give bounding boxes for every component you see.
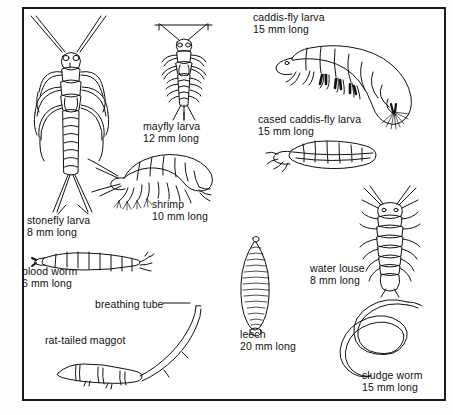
- label-rat-tailed-maggot: rat-tailed maggot: [45, 334, 126, 346]
- organism-name-stonefly: stonefly larva: [27, 214, 90, 226]
- label-caddis-fly-larva: caddis-fly larva 15 mm long: [253, 11, 325, 35]
- organism-size-waterlouse: 8 mm long: [310, 274, 365, 286]
- organism-name-sludge: sludge worm: [362, 369, 423, 381]
- organism-size-shrimp: 10 mm long: [152, 210, 208, 222]
- label-sludge-worm: sludge worm 15 mm long: [362, 369, 423, 393]
- organism-size-bloodworm: 6 mm long: [22, 277, 77, 289]
- label-stonefly-larva: stonefly larva 8 mm long: [27, 214, 90, 238]
- label-shrimp: shrimp 10 mm long: [152, 198, 208, 222]
- label-breathing-tube: breathing tube: [95, 298, 164, 310]
- organism-name-ratmaggot: rat-tailed maggot: [45, 334, 126, 346]
- organism-name-waterlouse: water louse: [310, 262, 365, 274]
- organism-size-caddis: 15 mm long: [253, 23, 325, 35]
- label-water-louse: water louse 8 mm long: [310, 262, 365, 286]
- organism-size-casedcaddis: 15 mm long: [258, 125, 361, 137]
- label-blood-worm: blood worm 6 mm long: [22, 265, 77, 289]
- organism-size-leech: 20 mm long: [240, 340, 296, 352]
- organism-name-mayfly: mayfly larva: [143, 120, 200, 132]
- organism-name-bloodworm: blood worm: [22, 265, 77, 277]
- label-mayfly-larva: mayfly larva 12 mm long: [143, 120, 200, 144]
- organism-size-mayfly: 12 mm long: [143, 132, 200, 144]
- organism-name-leech: leech: [240, 328, 266, 340]
- label-leech: leech 20 mm long: [240, 328, 296, 352]
- label-cased-caddis-fly-larva: cased caddis-fly larva 15 mm long: [258, 113, 361, 137]
- organism-size-sludge: 15 mm long: [362, 381, 423, 393]
- organism-size-stonefly: 8 mm long: [27, 226, 90, 238]
- organism-name-casedcaddis: cased caddis-fly larva: [258, 113, 361, 125]
- organism-name-caddis: caddis-fly larva: [253, 11, 325, 23]
- organism-name-shrimp: shrimp: [152, 198, 184, 210]
- annotation-name-breathing-tube: breathing tube: [95, 298, 164, 310]
- aquatic-invertebrates-figure: stonefly larva 8 mm long mayfly larva 12…: [0, 0, 453, 415]
